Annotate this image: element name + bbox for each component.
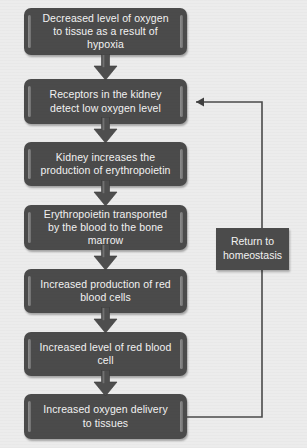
flow-node-7[interactable]: Increased oxygen delivery to tissues: [24, 394, 187, 439]
flow-node-1[interactable]: Decreased level of oxygen to tissue as a…: [24, 8, 187, 55]
block-arrow-down-6: [93, 370, 118, 397]
flow-node-6-label: Increased level of red blood cell: [38, 341, 173, 367]
block-arrow-down-5: [93, 307, 118, 334]
flow-node-7-label: Increased oxygen delivery to tissues: [38, 403, 173, 429]
return-to-homeostasis-label: Return to homeostasis: [222, 235, 283, 262]
block-arrow-down-4: [93, 244, 118, 271]
feedback-arrowhead-icon: [196, 98, 204, 107]
block-arrow-down-3: [93, 180, 118, 207]
flow-node-4-label: Erythropoietin transported by the blood …: [38, 208, 173, 247]
flowchart-canvas: Decreased level of oxygen to tissue as a…: [0, 0, 307, 448]
flow-node-4[interactable]: Erythropoietin transported by the blood …: [24, 205, 187, 250]
flow-node-2-label: Receptors in the kidney detect low oxyge…: [38, 88, 173, 114]
flow-node-3-label: Kidney increases the production of eryth…: [38, 151, 173, 177]
block-arrow-down-1: [93, 54, 118, 81]
flow-node-5-label: Increased production of red blood cells: [38, 278, 173, 304]
return-to-homeostasis-box[interactable]: Return to homeostasis: [216, 228, 289, 270]
block-arrow-down-2: [93, 117, 118, 144]
flow-node-1-label: Decreased level of oxygen to tissue as a…: [38, 12, 173, 51]
